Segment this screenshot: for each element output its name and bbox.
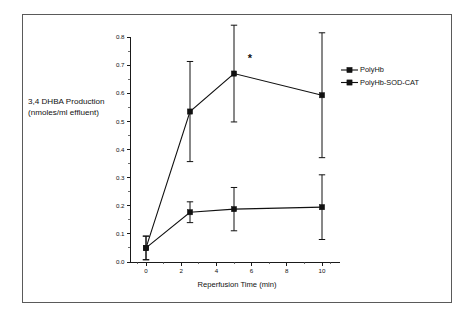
data-point-marker (319, 205, 324, 210)
line-chart: 0.00.10.20.30.40.50.60.70.8 0246810 * Po… (0, 0, 473, 318)
series-polyhb-sod-cat (143, 175, 325, 260)
data-point-marker (187, 109, 192, 114)
figure-root: 0.00.10.20.30.40.50.60.70.8 0246810 * Po… (0, 0, 473, 318)
y-tick-label: 0.3 (116, 174, 125, 181)
legend-marker (347, 67, 352, 72)
y-tick-label: 0.7 (116, 61, 125, 68)
data-point-marker (231, 71, 236, 76)
data-point-marker (143, 245, 148, 250)
y-tick-label: 0.4 (116, 146, 125, 153)
x-tick-label: 0 (144, 267, 148, 274)
legend-item-polyhb: PolyHb (341, 65, 384, 74)
y-axis-title-line2: (nmoles/ml effluent) (28, 108, 99, 117)
legend-label: PolyHb (360, 65, 384, 74)
y-tick-label: 0.5 (116, 118, 125, 125)
x-axis-title: Reperfusion Time (min) (198, 280, 277, 289)
x-tick-label: 6 (250, 267, 254, 274)
x-axis: 0246810 (130, 262, 340, 274)
data-point-marker (231, 207, 236, 212)
y-tick-label: 0.8 (116, 33, 125, 40)
legend-item-polyhb-sod-cat: PolyHb-SOD-CAT (341, 78, 419, 87)
significance-asterisk: * (248, 52, 253, 64)
y-tick-label: 0.6 (116, 89, 125, 96)
axis-label-group: Reperfusion Time (min)3,4 DHBA Productio… (28, 97, 277, 289)
annotation-group: * (248, 52, 253, 64)
legend-marker (347, 80, 352, 85)
chart-legend: PolyHbPolyHb-SOD-CAT (341, 65, 419, 87)
x-tick-label: 2 (179, 267, 183, 274)
x-tick-label: 4 (215, 267, 219, 274)
y-tick-label: 0.1 (116, 230, 125, 237)
y-tick-label: 0.0 (116, 258, 125, 265)
data-point-marker (319, 93, 324, 98)
data-series-group (143, 25, 325, 260)
data-point-marker (187, 210, 192, 215)
legend-label: PolyHb-SOD-CAT (360, 78, 419, 87)
y-axis: 0.00.10.20.30.40.50.60.70.8 (116, 33, 130, 265)
y-tick-label: 0.2 (116, 202, 125, 209)
x-tick-label: 10 (319, 267, 326, 274)
y-axis-title-line1: 3,4 DHBA Production (28, 97, 104, 106)
x-tick-label: 8 (285, 267, 289, 274)
